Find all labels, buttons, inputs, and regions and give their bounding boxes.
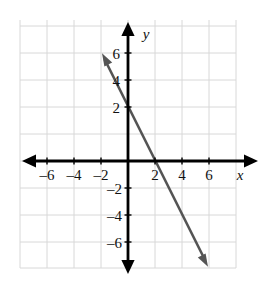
x-tick-label: –6 — [39, 167, 56, 183]
arrow-up-icon — [121, 22, 134, 36]
line-arrow-upper-left-icon — [102, 53, 112, 66]
x-tick-label: 4 — [178, 167, 186, 183]
x-tick-label: 6 — [205, 167, 213, 183]
y-axis-label: y — [141, 26, 150, 42]
y-tick-label: –6 — [106, 235, 123, 251]
axes — [22, 22, 258, 274]
line-arrow-lower-right-icon — [198, 254, 208, 267]
y-tick-label: 6 — [113, 46, 121, 62]
y-tick-label: –2 — [106, 181, 122, 197]
x-axis-label: x — [236, 167, 244, 183]
arrow-down-icon — [121, 260, 134, 274]
y-tick-label: 2 — [113, 100, 121, 116]
x-tick-label: 2 — [151, 167, 159, 183]
arrow-right-icon — [244, 154, 258, 167]
y-tick-labels: 6 4 2 –2 –4 –6 — [106, 46, 123, 251]
coordinate-plane-figure: –6 –4 –2 2 4 6 6 4 2 –2 –4 –6 x y — [0, 0, 280, 286]
x-tick-labels: –6 –4 –2 2 4 6 — [39, 167, 214, 183]
y-tick-label: 4 — [113, 73, 121, 89]
x-tick-label: –4 — [66, 167, 83, 183]
y-tick-label: –4 — [106, 208, 123, 224]
arrow-left-icon — [22, 154, 36, 167]
graph-canvas: –6 –4 –2 2 4 6 6 4 2 –2 –4 –6 x y — [0, 0, 280, 286]
